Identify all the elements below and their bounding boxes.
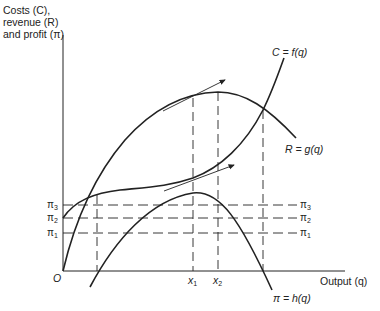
x2-subscript: 2 — [218, 280, 222, 287]
pi1-symbol: π — [300, 227, 307, 238]
cost-tangent-arrow — [164, 165, 234, 191]
pi3-subscript: 3 — [307, 204, 311, 211]
x-axis-label: Output (q) — [320, 275, 367, 287]
origin-label: O — [53, 272, 61, 284]
y-axis-label-line-2: revenue (R) — [3, 16, 65, 28]
x1-label: x1 — [188, 274, 197, 290]
pi3-subscript: 3 — [54, 204, 58, 211]
pi2-symbol: π — [300, 212, 307, 223]
revenue-tangent-arrow — [163, 80, 225, 111]
x2-label: x2 — [213, 274, 222, 290]
pi2-subscript: 2 — [307, 217, 311, 224]
pi2-right-label: π2 — [300, 212, 311, 227]
pi2-subscript: 2 — [54, 217, 58, 224]
pi1-subscript: 1 — [307, 232, 311, 239]
x1-subscript: 1 — [193, 280, 197, 287]
profit-maximization-diagram — [0, 0, 380, 311]
profit-curve — [90, 193, 272, 290]
cost-curve — [63, 58, 284, 218]
pi1-left-label: π1 — [47, 227, 58, 242]
pi3-symbol: π — [300, 199, 307, 210]
pi2-left-label: π2 — [47, 212, 58, 227]
profit-level-lines — [63, 205, 297, 233]
y-axis-label-line-1: Costs (C), — [3, 4, 65, 16]
pi1-symbol: π — [47, 227, 54, 238]
y-axis-label-line-3: and profit (π) — [3, 28, 65, 40]
cost-curve-label: C = f(q) — [272, 46, 307, 58]
pi1-subscript: 1 — [54, 232, 58, 239]
y-axis-label: Costs (C), revenue (R) and profit (π) — [3, 4, 65, 40]
profit-curve-label: π = h(q) — [273, 292, 311, 304]
pi2-symbol: π — [47, 212, 54, 223]
revenue-curve-label: R = g(q) — [285, 143, 323, 155]
pi1-right-label: π1 — [300, 227, 311, 242]
pi3-symbol: π — [47, 199, 54, 210]
